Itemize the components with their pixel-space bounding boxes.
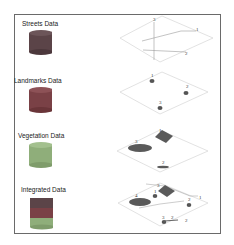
integrated-label-1: 1 bbox=[154, 189, 157, 194]
integrated-label-3b: 3 bbox=[162, 215, 165, 220]
vegetation-label-3: 3 bbox=[135, 139, 138, 144]
streets-label-1: 1 bbox=[196, 27, 199, 32]
streets-map: 3 1 2 bbox=[120, 16, 213, 62]
landmark-point-2 bbox=[184, 91, 189, 95]
landmark-point-1 bbox=[150, 79, 155, 83]
integrated-vegetation-ellipse bbox=[129, 198, 151, 206]
integrated-landmark-1 bbox=[153, 194, 158, 198]
integrated-label-2c: 2 bbox=[185, 218, 188, 223]
integrated-map: 3 1 4 2 1 3 2 2 bbox=[118, 183, 208, 226]
landmarks-label-2: 2 bbox=[186, 84, 189, 89]
integrated-street-2 bbox=[164, 220, 178, 221]
integrated-vegetation-area bbox=[158, 185, 175, 197]
landmarks-label-1: 1 bbox=[151, 73, 154, 78]
integrated-label-1b: 1 bbox=[199, 195, 202, 200]
vegetation-label-2: 2 bbox=[162, 160, 165, 165]
street-line-2 bbox=[143, 50, 186, 52]
vegetation-map: 1 3 2 bbox=[117, 128, 208, 172]
vegetation-area-2 bbox=[157, 166, 169, 169]
landmark-point-3 bbox=[158, 106, 163, 110]
integrated-landmark-2 bbox=[187, 203, 192, 207]
vegetation-area-3 bbox=[128, 144, 152, 152]
street-line-1 bbox=[142, 31, 196, 41]
map-layers: 3 1 2 1 2 3 1 3 2 3 1 4 2 1 3 bbox=[0, 0, 234, 245]
integrated-label-2: 2 bbox=[188, 197, 191, 202]
landmarks-map: 1 2 3 bbox=[120, 72, 208, 114]
landmarks-label-3: 3 bbox=[159, 100, 162, 105]
vegetation-area-1 bbox=[155, 130, 173, 143]
streets-label-2: 2 bbox=[185, 51, 188, 56]
